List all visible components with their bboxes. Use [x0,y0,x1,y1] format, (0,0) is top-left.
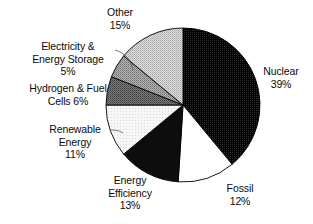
pie-label-electricity-line2: Energy Storage [14,53,122,66]
pie-label-renewable-line1: Renewable [34,123,116,136]
pie-label-energy-efficiency: Energy Efficiency 13% [92,174,168,212]
pie-label-renewable-value: 11% [34,148,116,161]
pie-label-nuclear-value: 39% [252,78,310,91]
pie-label-fossil-name: Fossil [213,182,267,195]
pie-label-fossil: Fossil 12% [213,182,267,207]
pie-label-hydrogen-line1: Hydrogen & Fuel [12,82,124,95]
pie-label-renewable-energy: Renewable Energy 11% [34,123,116,161]
pie-label-energy-efficiency-line1: Energy [92,174,168,187]
pie-label-hydrogen-fuel-cells: Hydrogen & Fuel Cells 6% [12,82,124,107]
pie-label-renewable-line2: Energy [34,136,116,149]
pie-label-nuclear-name: Nuclear [252,65,310,78]
pie-label-other: Other 15% [87,6,153,31]
pie-label-electricity-value: 5% [14,65,122,78]
pie-chart-figure: Other 15% Electricity & Energy Storage 5… [0,0,313,224]
pie-label-hydrogen-line2: Cells 6% [12,95,124,108]
pie-label-energy-efficiency-value: 13% [92,199,168,212]
pie-label-energy-efficiency-line2: Efficiency [92,187,168,200]
pie-label-electricity-line1: Electricity & [14,40,122,53]
pie-label-other-value: 15% [87,19,153,32]
pie-label-nuclear: Nuclear 39% [252,65,310,90]
pie-label-electricity-energy-storage: Electricity & Energy Storage 5% [14,40,122,78]
pie-label-fossil-value: 12% [213,195,267,208]
pie-label-other-name: Other [87,6,153,19]
pie-slice-group [106,28,260,182]
